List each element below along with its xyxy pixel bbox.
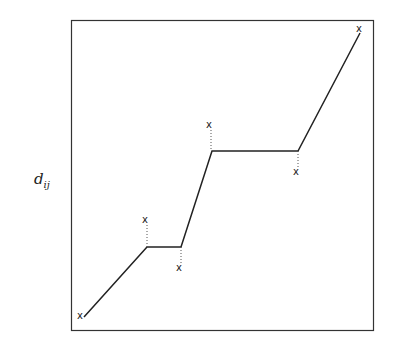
x-marker-icon: x <box>176 262 182 273</box>
plot-frame <box>72 21 374 331</box>
x-marker-icon: x <box>142 214 148 225</box>
plot-area: xxxxxx <box>0 0 395 358</box>
x-marker-icon: x <box>293 166 299 177</box>
x-marker-icon: x <box>206 119 212 130</box>
fit-line <box>84 33 360 317</box>
x-marker-icon: x <box>356 23 362 34</box>
residual-lines <box>147 130 298 263</box>
y-axis-label: dij <box>34 170 50 190</box>
x-marker-icon: x <box>77 310 83 321</box>
